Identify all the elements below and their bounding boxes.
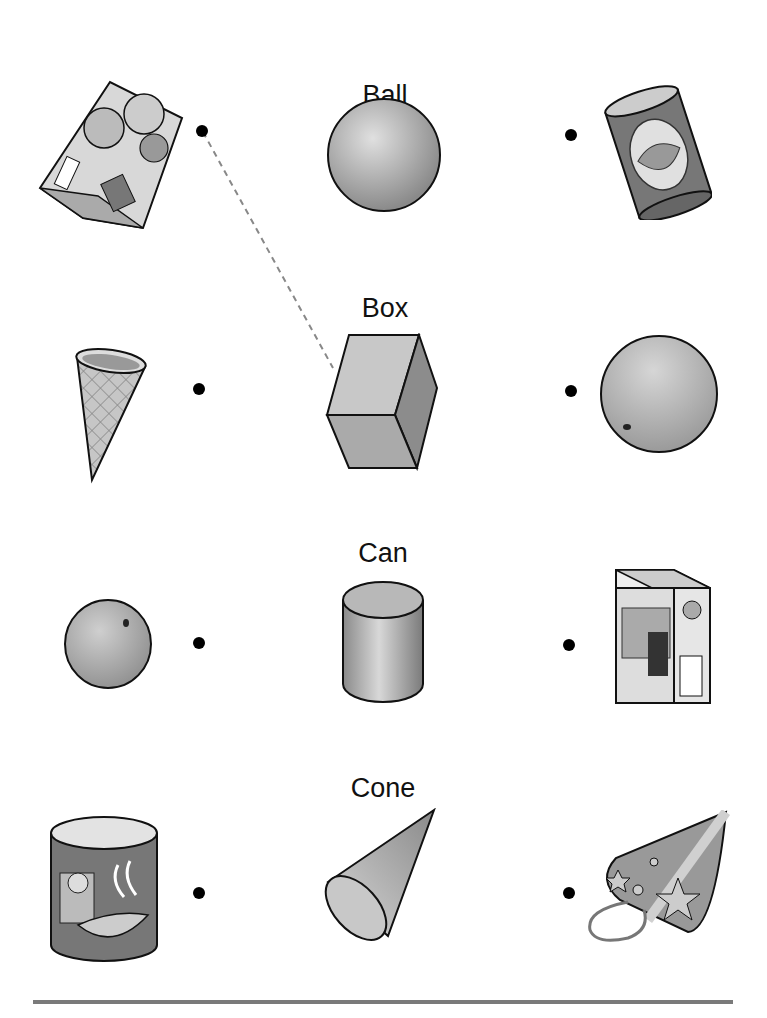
orange-left-dot[interactable] — [193, 637, 205, 649]
spaghetti-can-image[interactable] — [602, 85, 712, 220]
cake-mix-box-dot[interactable] — [563, 639, 575, 651]
party-hat-image[interactable] — [588, 810, 733, 950]
ice-cream-cone-dot[interactable] — [193, 383, 205, 395]
orange-left-image[interactable] — [62, 597, 154, 691]
cracker-box-image[interactable] — [38, 78, 188, 233]
orange-right-dot[interactable] — [565, 385, 577, 397]
cake-mix-box-image[interactable] — [614, 568, 712, 708]
oatmeal-can-image[interactable] — [48, 815, 160, 965]
bottom-rule — [33, 1000, 733, 1004]
ice-cream-cone-image[interactable] — [75, 345, 147, 485]
party-hat-dot[interactable] — [563, 887, 575, 899]
cylinder-shape[interactable] — [340, 580, 426, 704]
shape-label-can: Can — [323, 538, 443, 569]
cracker-box-dot[interactable] — [196, 125, 208, 137]
sphere-shape[interactable] — [326, 97, 442, 213]
cone-shape[interactable] — [316, 808, 438, 943]
shape-label-box: Box — [325, 293, 445, 324]
cube-shape[interactable] — [325, 333, 440, 471]
orange-right-image[interactable] — [598, 333, 720, 455]
oatmeal-can-dot[interactable] — [193, 887, 205, 899]
shape-label-cone: Cone — [323, 773, 443, 804]
spaghetti-can-dot[interactable] — [565, 129, 577, 141]
